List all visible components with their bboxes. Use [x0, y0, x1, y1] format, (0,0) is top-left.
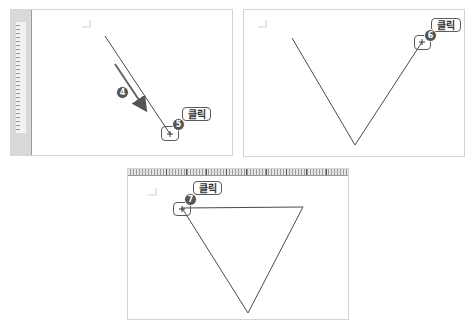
margin-corner-mark	[148, 188, 156, 195]
click-callout: 클릭	[182, 107, 211, 121]
click-callout: 클릭	[193, 181, 222, 195]
margin-corner-mark	[82, 20, 90, 27]
drawn-line	[105, 36, 170, 134]
margin-corner-mark	[258, 20, 266, 27]
drawn-triangle	[182, 207, 303, 313]
click-callout: 클릭	[431, 18, 461, 32]
drawn-v-shape	[292, 38, 422, 145]
step-7-badge: 7	[184, 193, 197, 206]
step-5-badge: 5	[172, 118, 185, 131]
step-6-badge: 6	[424, 29, 437, 42]
drawing-canvas[interactable]	[0, 0, 469, 329]
step-4-badge: 4	[116, 86, 129, 99]
